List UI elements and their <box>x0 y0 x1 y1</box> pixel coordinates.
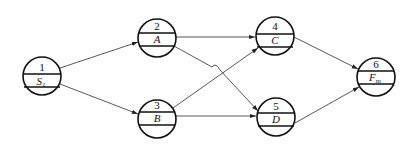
node-number: 6 <box>373 58 379 70</box>
node-1: 1 S1 <box>23 57 61 95</box>
edge-4-6 <box>294 37 358 69</box>
node-number: 2 <box>154 20 160 32</box>
edge-1-2 <box>60 42 138 68</box>
node-6: 6 Fm <box>357 58 395 96</box>
node-number: 1 <box>39 61 45 73</box>
node-4: 4 C <box>256 17 294 55</box>
node-5: 5 D <box>257 98 295 136</box>
node-label: A <box>153 33 161 45</box>
edge-5-6 <box>295 87 359 123</box>
edge-2-5 <box>174 46 258 111</box>
node-label: D <box>271 113 280 125</box>
node-label: C <box>271 34 279 46</box>
edges <box>60 37 359 123</box>
edge-3-4 <box>173 48 258 108</box>
node-number: 4 <box>272 20 278 32</box>
node-2: 2 A <box>138 19 176 57</box>
edge-1-3 <box>60 84 138 114</box>
node-number: 3 <box>154 99 160 111</box>
node-3: 3 B <box>138 99 176 138</box>
node-number: 5 <box>273 100 279 112</box>
network-diagram: 1 S1 2 A 3 B 4 C 5 D 6 Fm <box>0 0 412 147</box>
node-label: B <box>154 112 161 124</box>
